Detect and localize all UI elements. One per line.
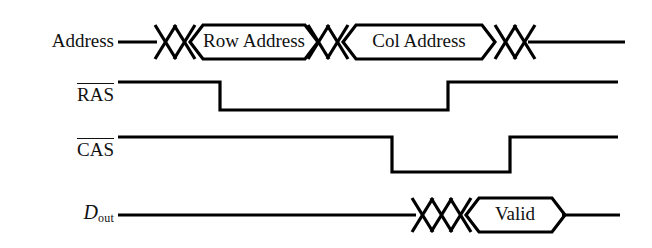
waveform-cas [118, 137, 618, 172]
timing-diagram: Address RAS CAS Dout Row Address [0, 0, 652, 248]
address-bus-col-label: Col Address [372, 30, 465, 51]
waveform-dout: Valid [118, 198, 620, 232]
address-bus-row: Row Address [190, 25, 318, 59]
waveform-canvas: Row Address Col Address [0, 0, 652, 248]
address-bus-row-label: Row Address [203, 30, 305, 51]
waveform-ras [118, 82, 618, 110]
dout-bus-valid-label: Valid [495, 203, 536, 224]
dout-crossover-group [412, 198, 471, 232]
dout-bus-valid: Valid [466, 198, 565, 232]
waveform-address: Row Address Col Address [118, 25, 625, 59]
address-bus-col: Col Address [343, 25, 495, 59]
cas-signal-path [118, 137, 618, 172]
ras-signal-path [118, 82, 618, 110]
